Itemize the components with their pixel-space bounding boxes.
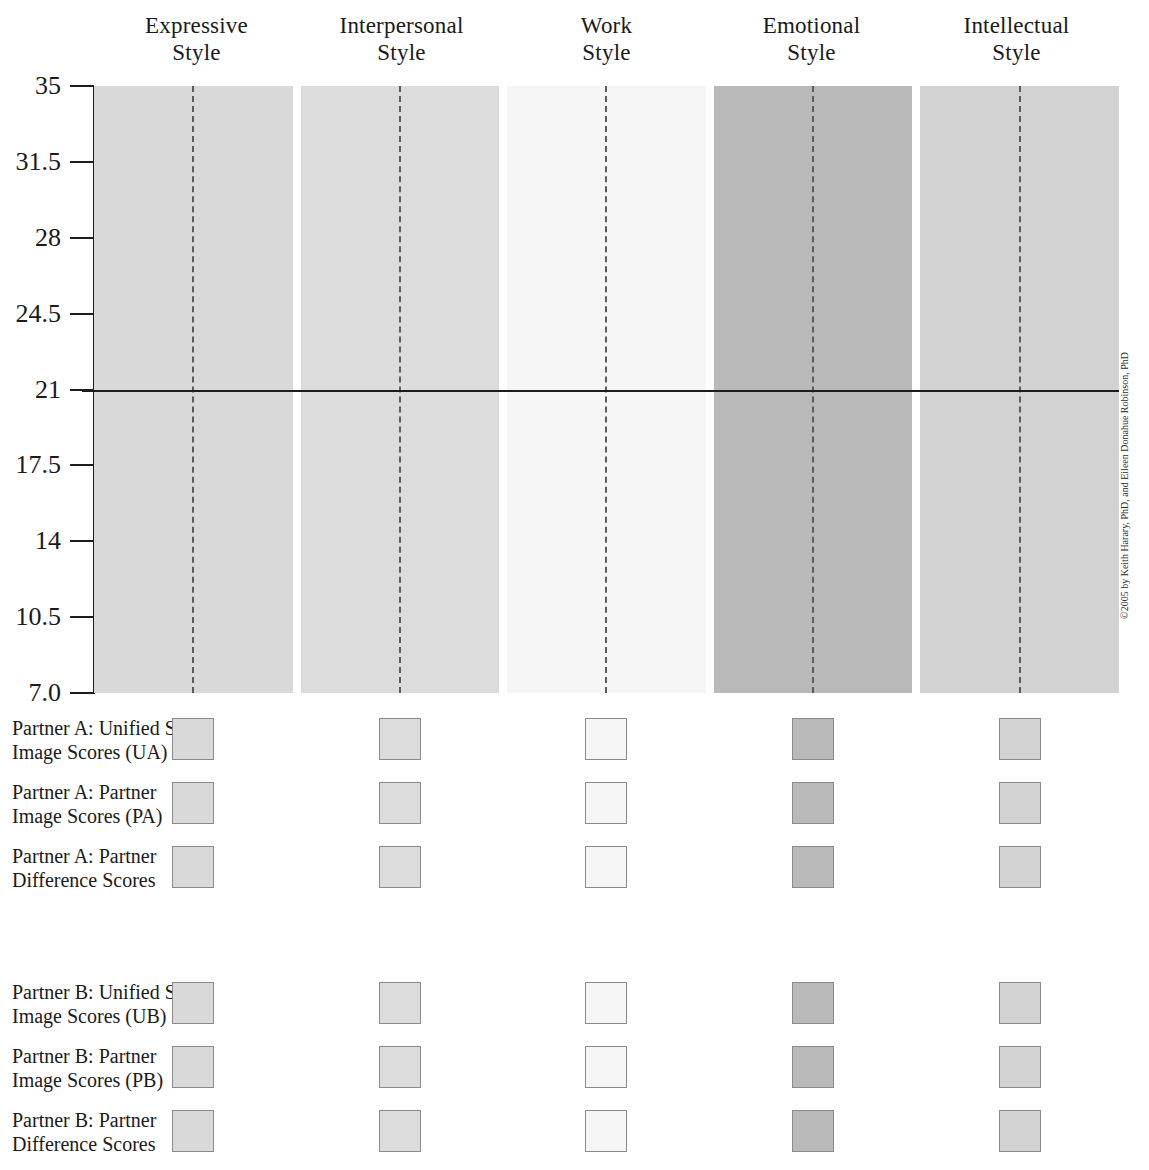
legend-swatch — [379, 782, 421, 824]
column-header-line1: Interpersonal — [299, 12, 504, 39]
legend-swatch — [172, 718, 214, 760]
legend-swatch — [585, 1110, 627, 1152]
y-axis-tick-label: 7.0 — [0, 680, 61, 706]
legend-swatch-cell-intellectual — [920, 1046, 1119, 1092]
legend-swatch-cell-intellectual — [920, 846, 1119, 892]
legend-swatch-cell-work — [507, 718, 706, 764]
legend-swatch-cell-work — [507, 782, 706, 828]
legend-row: Partner A: Unified Self- Image Scores (U… — [0, 712, 1149, 776]
column-header-line1: Intellectual — [914, 12, 1119, 39]
y-axis-tick — [70, 616, 94, 618]
legend-swatch-cell-interpersonal — [301, 982, 500, 1028]
legend-swatch — [172, 982, 214, 1024]
legend-swatch-cell-emotional — [714, 1110, 913, 1156]
legend-swatch-cell-intellectual — [920, 718, 1119, 764]
legend-swatch-row — [94, 1046, 1119, 1092]
legend-swatch-row — [94, 718, 1119, 764]
legend-swatch — [172, 1110, 214, 1152]
legend-swatch — [379, 1046, 421, 1088]
y-axis-tick — [70, 692, 94, 694]
legend-swatch-cell-interpersonal — [301, 846, 500, 892]
legend-swatch-cell-work — [507, 1110, 706, 1156]
legend-swatch — [585, 1046, 627, 1088]
column-header-line1: Expressive — [94, 12, 299, 39]
y-axis-tick — [70, 85, 94, 87]
column-header-line2: Style — [709, 39, 914, 66]
legend-swatch — [585, 782, 627, 824]
legend-row: Partner B: Partner Image Scores (PB) — [0, 1040, 1149, 1104]
column-header-expressive-style: Expressive Style — [94, 12, 299, 74]
legend-swatch-row — [94, 982, 1119, 1028]
legend-swatch-cell-expressive — [94, 1110, 293, 1156]
column-header-line2: Style — [914, 39, 1119, 66]
column-header-line2: Style — [504, 39, 709, 66]
legend-swatch — [999, 782, 1041, 824]
legend-swatch-cell-interpersonal — [301, 782, 500, 828]
legend-swatch — [379, 718, 421, 760]
legend-swatch — [792, 846, 834, 888]
legend-swatch — [172, 846, 214, 888]
legend-swatch-cell-expressive — [94, 782, 293, 828]
legend-swatch-row — [94, 782, 1119, 828]
legend-row: Partner B: Unified Self- Image Scores (U… — [0, 976, 1149, 1040]
legend-swatch — [999, 1046, 1041, 1088]
legend-row: Partner A: Partner Difference Scores — [0, 840, 1149, 904]
column-header-line1: Work — [504, 12, 709, 39]
legend-swatch-cell-work — [507, 846, 706, 892]
legend-swatch-cell-expressive — [94, 718, 293, 764]
column-header-intellectual-style: Intellectual Style — [914, 12, 1119, 74]
legend-swatch — [792, 718, 834, 760]
legend-swatch — [585, 982, 627, 1024]
legend-swatch-cell-expressive — [94, 982, 293, 1028]
legend-swatch — [792, 982, 834, 1024]
column-header-line2: Style — [94, 39, 299, 66]
legend-swatch-cell-intellectual — [920, 982, 1119, 1028]
y-axis-tick-label: 31.5 — [0, 149, 61, 175]
y-axis-tick — [70, 464, 94, 466]
legend-swatch — [585, 718, 627, 760]
column-headers: Expressive Style Interpersonal Style Wor… — [94, 12, 1119, 74]
legend-swatch — [999, 846, 1041, 888]
legend-group-partner-a: Partner A: Unified Self- Image Scores (U… — [0, 712, 1149, 904]
legend-group-partner-b: Partner B: Unified Self- Image Scores (U… — [0, 976, 1149, 1168]
legend-swatch — [999, 1110, 1041, 1152]
legend-swatch-cell-work — [507, 982, 706, 1028]
legend-swatch — [999, 982, 1041, 1024]
legend-swatch-row — [94, 846, 1119, 892]
legend-swatch-cell-emotional — [714, 846, 913, 892]
legend-swatch — [379, 982, 421, 1024]
copyright-notice: ©2005 by Keith Harary, PhD, and Eileen D… — [1119, 352, 1131, 619]
legend-swatch-cell-expressive — [94, 1046, 293, 1092]
legend-swatch-cell-work — [507, 1046, 706, 1092]
y-axis-tick — [70, 540, 94, 542]
y-axis-tick — [70, 313, 94, 315]
legend-swatch-cell-emotional — [714, 982, 913, 1028]
legend-swatch — [792, 1110, 834, 1152]
y-axis-tick-label: 28 — [0, 225, 61, 251]
y-axis-tick-label: 35 — [0, 73, 61, 99]
legend-swatch-cell-emotional — [714, 782, 913, 828]
legend-swatch — [172, 782, 214, 824]
legend: Partner A: Unified Self- Image Scores (U… — [0, 712, 1149, 1168]
legend-swatch-cell-emotional — [714, 718, 913, 764]
plot-area — [94, 86, 1119, 693]
y-axis-tick — [70, 237, 94, 239]
legend-swatch — [172, 1046, 214, 1088]
legend-swatch — [585, 846, 627, 888]
y-axis-tick-label: 24.5 — [0, 301, 61, 327]
column-header-interpersonal-style: Interpersonal Style — [299, 12, 504, 74]
legend-swatch — [792, 782, 834, 824]
y-axis-tick — [70, 161, 94, 163]
column-header-line2: Style — [299, 39, 504, 66]
legend-row: Partner A: Partner Image Scores (PA) — [0, 776, 1149, 840]
legend-swatch — [792, 1046, 834, 1088]
legend-swatch-cell-intellectual — [920, 782, 1119, 828]
legend-swatch — [379, 1110, 421, 1152]
y-axis-tick-label: 17.5 — [0, 452, 61, 478]
column-header-work-style: Work Style — [504, 12, 709, 74]
legend-swatch-cell-intellectual — [920, 1110, 1119, 1156]
column-header-emotional-style: Emotional Style — [709, 12, 914, 74]
legend-swatch-cell-interpersonal — [301, 718, 500, 764]
legend-swatch-cell-expressive — [94, 846, 293, 892]
y-axis-tick-label: 10.5 — [0, 604, 61, 630]
